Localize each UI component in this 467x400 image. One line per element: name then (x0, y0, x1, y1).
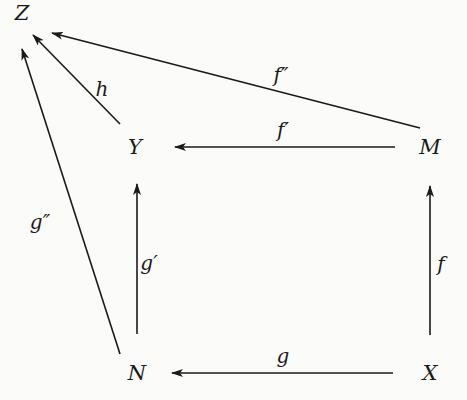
edge-label-h: h (96, 79, 109, 99)
edge-label-f: f (437, 254, 444, 274)
edge-label-g-double-prime: g″ (30, 212, 50, 232)
commutative-diagram: Z Y M N X g f g′ f′ f″ h g″ (0, 0, 467, 400)
edge-label-g-prime: g′ (140, 253, 157, 273)
node-z: Z (15, 3, 30, 24)
node-x: X (423, 363, 438, 384)
edge-label-f-double-prime: f″ (274, 65, 289, 85)
edge-label-f-prime: f′ (277, 120, 289, 140)
node-y: Y (128, 137, 142, 158)
edge-label-g: g (277, 346, 290, 366)
arrows-layer (0, 0, 467, 400)
node-n: N (128, 363, 146, 384)
node-m: M (419, 137, 441, 158)
